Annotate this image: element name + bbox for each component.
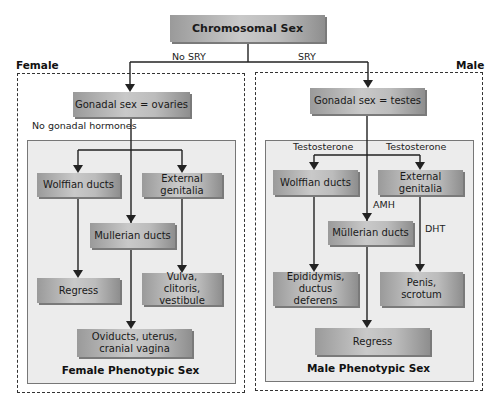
male-phenotype-label: Male Phenotypic Sex <box>265 362 472 374</box>
male-section-label: Male <box>456 59 484 71</box>
gonadal-testes-box: Gonadal sex = testes <box>310 88 425 114</box>
sry-label: SRY <box>298 51 316 62</box>
female-regress-box: Regress <box>37 278 120 303</box>
male-wolffian-box: Wolffian ducts <box>273 170 358 195</box>
testosterone-wolffian-label: Testosterone <box>293 141 353 152</box>
vulva-box: Vulva, clitoris, vestibule <box>142 273 222 305</box>
male-external-genitalia-box: External genitalia <box>378 170 463 195</box>
male-mullerian-box: Müllerian ducts <box>328 221 413 245</box>
chromosomal-sex-box: Chromosomal Sex <box>170 15 325 42</box>
amh-label: AMH <box>373 199 395 210</box>
no-sry-label: No SRY <box>172 51 206 62</box>
testosterone-external-label: Testosterone <box>386 141 446 152</box>
epididymis-box: Epididymis, ductus deferens <box>273 272 358 306</box>
oviducts-box: Oviducts, uterus, cranial vagina <box>77 329 192 357</box>
female-external-genitalia-box: External genitalia <box>142 173 222 197</box>
gonadal-ovaries-box: Gonadal sex = ovaries <box>73 92 190 117</box>
female-section-label: Female <box>16 59 59 71</box>
female-phenotype-label: Female Phenotypic Sex <box>27 364 234 376</box>
female-mullerian-box: Mullerian ducts <box>90 223 175 248</box>
male-regress-box: Regress <box>315 328 430 355</box>
no-gonadal-hormones-label: No gonadal hormones <box>32 120 137 131</box>
dht-label: DHT <box>425 223 445 234</box>
penis-scrotum-box: Penis, scrotum <box>380 272 463 306</box>
female-wolffian-box: Wolffian ducts <box>37 173 120 197</box>
